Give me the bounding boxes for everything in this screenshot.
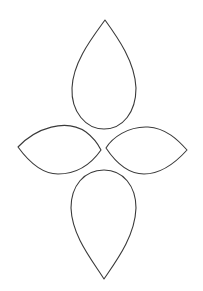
flower-outline-drawing xyxy=(0,0,203,291)
bottom-petal-shape xyxy=(71,170,136,279)
left-petal-shape xyxy=(18,125,101,174)
flower-template-canvas: Four-petal flower template outline xyxy=(0,0,203,291)
right-petal-shape xyxy=(106,127,187,174)
top-petal-shape xyxy=(72,20,136,129)
